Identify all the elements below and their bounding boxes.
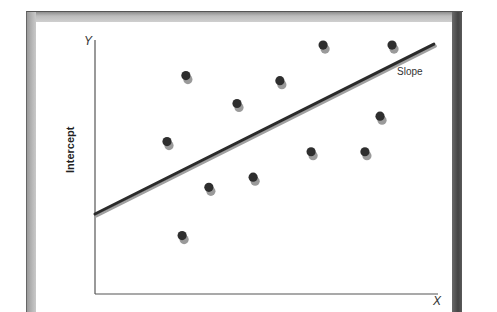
data-point xyxy=(178,231,189,244)
y-axis-label: Y xyxy=(84,34,92,48)
data-points xyxy=(162,40,398,244)
data-point xyxy=(275,76,286,89)
slope-label: Slope xyxy=(397,66,423,77)
data-point xyxy=(162,137,173,150)
data-point xyxy=(375,112,386,125)
data-point xyxy=(181,71,192,84)
data-point xyxy=(306,147,317,160)
data-point xyxy=(232,99,243,112)
intercept-label: Intercept xyxy=(64,127,76,173)
regression-line xyxy=(95,44,435,216)
data-point xyxy=(387,40,398,53)
data-point xyxy=(249,173,260,186)
data-point xyxy=(318,40,329,53)
x-axis-label: X xyxy=(433,294,441,308)
data-point xyxy=(360,147,371,160)
data-point xyxy=(204,183,215,196)
axes xyxy=(95,40,438,294)
